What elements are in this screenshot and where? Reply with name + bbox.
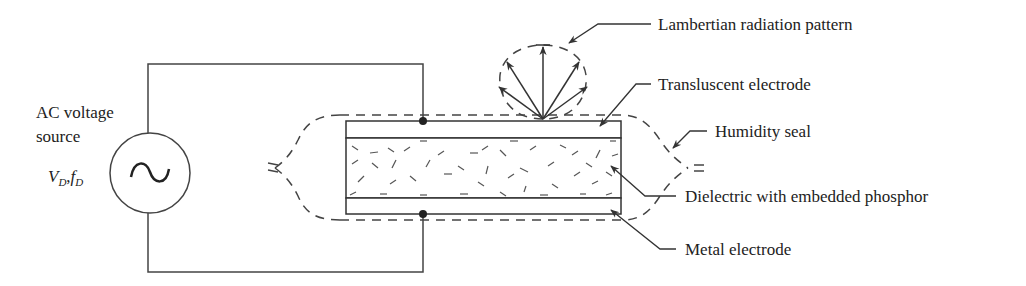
label-metal-electrode: Metal electrode [685, 241, 791, 258]
translucent-electrode-layer [346, 121, 621, 138]
label-translucent-electrode: Transluscent electrode [658, 76, 811, 93]
bottom-contact-dot [419, 210, 427, 218]
ac-source-symbol [110, 133, 190, 213]
frequency-subscript: D [75, 176, 83, 188]
label-humidity-seal: Humidity seal [715, 123, 811, 140]
metal-electrode-layer [346, 198, 621, 214]
label-lambertian: Lambertian radiation pattern [658, 16, 852, 33]
dielectric-phosphor-layer [346, 138, 621, 198]
voltage-symbol: V [48, 167, 58, 186]
device-stack [346, 121, 621, 214]
source-parameters: VD,fD [48, 168, 83, 188]
el-device-diagram [0, 0, 1026, 286]
lambertian-pattern [499, 45, 587, 119]
ac-source-label-line2: source [36, 128, 80, 145]
top-contact-dot [419, 117, 427, 125]
label-dielectric: Dielectric with embedded phosphor [685, 188, 928, 205]
ac-source-label-line1: AC voltage [36, 104, 114, 121]
